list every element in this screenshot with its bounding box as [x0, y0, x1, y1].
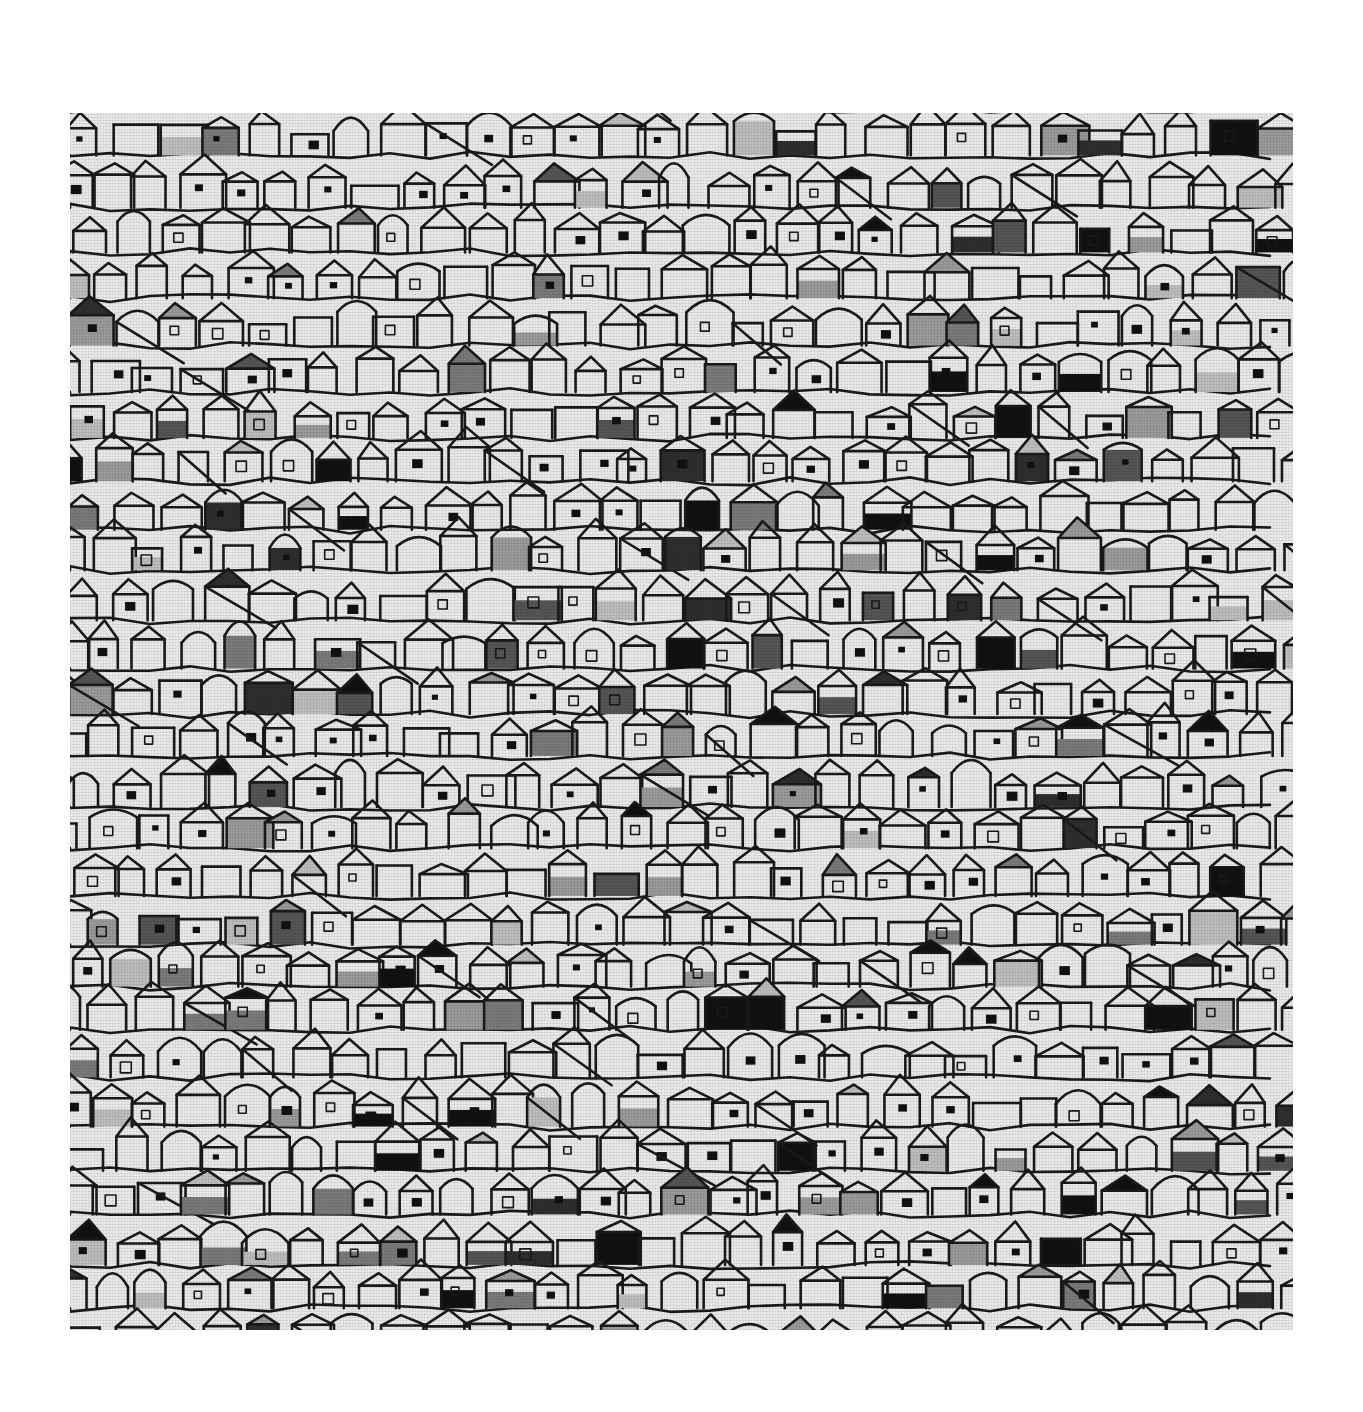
house-pattern [70, 113, 1293, 1330]
fabric-swatch [70, 113, 1293, 1330]
